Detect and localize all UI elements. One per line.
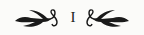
chapter-numeral: I <box>66 9 80 26</box>
fleuron-right-icon <box>83 7 131 29</box>
chapter-heading: I <box>0 0 144 35</box>
fleuron-left-icon <box>13 7 61 29</box>
